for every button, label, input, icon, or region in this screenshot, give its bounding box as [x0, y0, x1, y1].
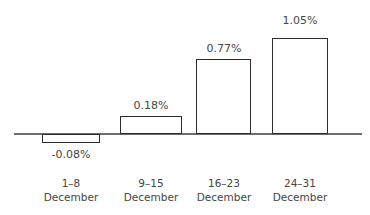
category-month-3: December [184, 190, 264, 204]
category-range-4: 24–31 [260, 176, 340, 190]
category-range-2: 9–15 [111, 176, 191, 190]
category-month-1: December [31, 190, 111, 204]
value-label-24-31-december: 1.05% [265, 14, 335, 27]
category-month-4: December [260, 190, 340, 204]
bar-24-31-december [272, 38, 328, 134]
category-label-9-15-december: 9–15 December [111, 176, 191, 204]
category-label-24-31-december: 24–31 December [260, 176, 340, 204]
category-label-1-8-december: 1–8 December [31, 176, 111, 204]
bar-1-8-december [42, 134, 100, 143]
bar-chart: -0.08% 0.18% 0.77% 1.05% 1–8 December 9–… [0, 0, 370, 215]
bar-9-15-december [120, 116, 182, 134]
category-label-16-23-december: 16–23 December [184, 176, 264, 204]
value-label-9-15-december: 0.18% [116, 99, 186, 112]
value-label-1-8-december: -0.08% [36, 148, 106, 161]
category-month-2: December [111, 190, 191, 204]
category-range-1: 1–8 [31, 176, 111, 190]
value-label-16-23-december: 0.77% [189, 42, 259, 55]
bar-16-23-december [196, 59, 251, 134]
category-range-3: 16–23 [184, 176, 264, 190]
